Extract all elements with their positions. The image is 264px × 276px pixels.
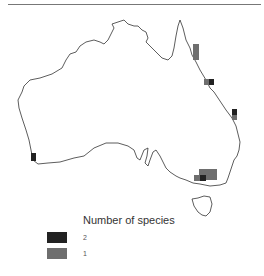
occurrence-cell-value-2 bbox=[200, 175, 206, 181]
occurrence-cell-value-2 bbox=[31, 153, 36, 161]
tasmania-outline bbox=[192, 196, 212, 216]
occurrence-cell-value-2 bbox=[232, 109, 237, 115]
mainland-coastline bbox=[18, 20, 240, 186]
legend-label: 1 bbox=[83, 250, 87, 257]
legend-title: Number of species bbox=[83, 214, 175, 226]
occurrence-cell-value-1 bbox=[232, 115, 237, 120]
legend-swatch-dark bbox=[47, 232, 67, 243]
occurrence-cell-value-1 bbox=[193, 44, 199, 60]
occurrence-cell-value-2 bbox=[209, 79, 214, 85]
legend-label: 2 bbox=[83, 234, 87, 241]
legend-swatch-grey bbox=[47, 248, 67, 259]
legend-item-1: 1 bbox=[47, 248, 87, 259]
legend-item-2: 2 bbox=[47, 232, 87, 243]
occurrence-cell-value-1 bbox=[194, 175, 200, 181]
australia-map bbox=[0, 0, 264, 276]
